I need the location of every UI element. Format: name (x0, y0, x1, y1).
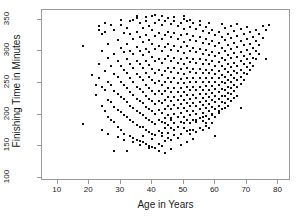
data-point (123, 139, 125, 141)
data-point (180, 87, 182, 89)
data-point (205, 59, 207, 61)
data-point (151, 56, 153, 58)
data-point (192, 68, 194, 70)
data-point (211, 85, 213, 87)
data-point (180, 103, 182, 105)
y-tick (37, 19, 41, 20)
data-point (132, 81, 134, 83)
data-point (211, 92, 213, 94)
data-point (170, 127, 172, 129)
data-point (189, 89, 191, 91)
data-point (145, 34, 147, 36)
data-point (195, 113, 197, 115)
data-point (211, 40, 213, 42)
y-tick-label: 200 (2, 101, 11, 125)
data-point (113, 29, 115, 31)
data-point (164, 152, 166, 154)
data-point (139, 126, 141, 128)
data-point (123, 51, 125, 53)
data-point (110, 84, 112, 86)
data-point (129, 91, 131, 93)
data-point (199, 86, 201, 88)
data-point (139, 100, 141, 102)
data-point (230, 66, 232, 68)
data-point (189, 26, 191, 28)
data-point (126, 101, 128, 103)
data-point (224, 59, 226, 61)
data-point (243, 33, 245, 35)
data-point (189, 19, 191, 21)
data-point (164, 70, 166, 72)
data-point (126, 58, 128, 60)
data-point (107, 116, 109, 118)
data-point (173, 45, 175, 47)
data-point (192, 35, 194, 37)
data-point (151, 110, 153, 112)
data-point (202, 120, 204, 122)
data-point (170, 139, 172, 141)
data-point (236, 65, 238, 67)
x-axis-title: Age in Years (41, 199, 290, 211)
data-point (101, 129, 103, 131)
data-point (117, 93, 119, 95)
data-point (224, 39, 226, 41)
data-point (170, 49, 172, 51)
data-point (136, 98, 138, 100)
data-point (230, 87, 232, 89)
data-point (151, 68, 153, 70)
data-point (202, 116, 204, 118)
data-point (195, 97, 197, 99)
data-point (132, 67, 134, 69)
data-point (161, 24, 163, 26)
data-point (167, 87, 169, 89)
data-point (161, 15, 163, 17)
data-point (98, 25, 100, 27)
data-point (202, 104, 204, 106)
data-point (120, 24, 122, 26)
x-tick-label: 20 (76, 185, 100, 194)
data-point (107, 81, 109, 83)
data-point (145, 48, 147, 50)
data-point (139, 88, 141, 90)
data-point (164, 108, 166, 110)
data-point (154, 60, 156, 62)
data-point (110, 119, 112, 121)
data-point (126, 87, 128, 89)
data-point (167, 31, 169, 33)
data-point (142, 67, 144, 69)
data-point (186, 94, 188, 96)
data-point (158, 150, 160, 152)
data-point (151, 29, 153, 31)
data-point (202, 30, 204, 32)
data-point (183, 15, 185, 17)
data-point (192, 102, 194, 104)
data-point (170, 60, 172, 62)
data-point (236, 86, 238, 88)
data-point (177, 107, 179, 109)
data-point (123, 84, 125, 86)
y-tick (37, 82, 41, 83)
data-point (186, 141, 188, 143)
data-point (221, 36, 223, 38)
x-tick-label: 80 (265, 185, 289, 194)
data-point (233, 97, 235, 99)
data-point (218, 70, 220, 72)
data-point (158, 130, 160, 132)
data-point (208, 96, 210, 98)
data-point (145, 129, 147, 131)
data-point (186, 57, 188, 59)
data-point (205, 85, 207, 87)
data-point (132, 141, 134, 143)
data-point (161, 93, 163, 95)
data-point (151, 15, 153, 17)
data-point (227, 79, 229, 81)
data-point (98, 77, 100, 79)
data-point (82, 123, 84, 125)
data-point (151, 100, 153, 102)
data-point (170, 36, 172, 38)
data-point (95, 84, 97, 86)
data-point (101, 33, 103, 35)
data-point (189, 71, 191, 73)
data-point (167, 77, 169, 79)
y-tick (37, 145, 41, 146)
